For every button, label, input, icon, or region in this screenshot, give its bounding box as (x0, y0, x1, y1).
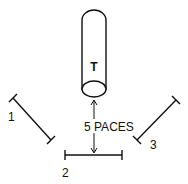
position-3-label: 3 (150, 138, 157, 152)
position-3-line (133, 96, 180, 144)
diagram-canvas: T 5 PACES 1 2 3 (0, 0, 188, 184)
distance-label: 5 PACES (84, 120, 134, 134)
target-cylinder (82, 10, 106, 97)
position-2-label: 2 (62, 166, 69, 180)
position-1-label: 1 (8, 110, 15, 124)
target-label: T (90, 60, 98, 74)
position-1-line (9, 94, 55, 144)
